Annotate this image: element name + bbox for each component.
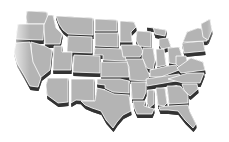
state-ks (101, 62, 129, 77)
state-fl (159, 105, 196, 128)
map-svg (0, 0, 229, 142)
state-ia (121, 45, 143, 57)
state-wy (67, 36, 92, 53)
state-wi (136, 31, 151, 47)
state-sd (95, 33, 118, 47)
state-mt (56, 16, 93, 35)
state-mi (159, 38, 171, 49)
state-or (16, 24, 44, 40)
state-co (73, 55, 100, 73)
state-in (156, 49, 166, 67)
state-pa (182, 41, 205, 53)
state-al (156, 88, 167, 106)
state-top-faces (14, 11, 212, 128)
state-wa (26, 11, 48, 24)
state-ms (147, 90, 154, 108)
us-states-3d-map (0, 0, 229, 142)
state-nd (95, 19, 117, 31)
state-nm (71, 79, 94, 103)
state-ar (131, 82, 146, 99)
